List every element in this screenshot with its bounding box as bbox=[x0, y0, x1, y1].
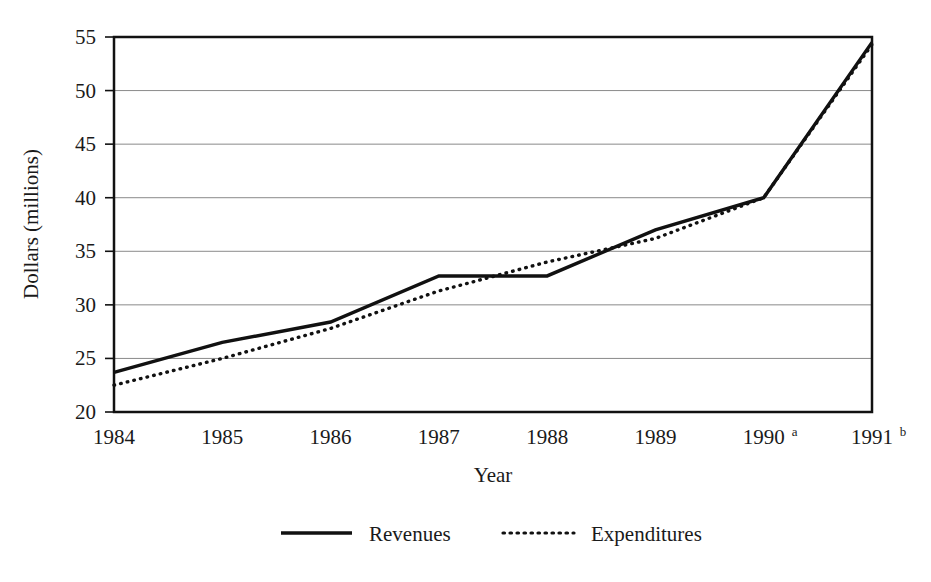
x-tick-label-1984: 1984 bbox=[93, 425, 136, 449]
x-tick-label-1987: 1987 bbox=[418, 425, 460, 449]
chart-figure: 2025303540455055 19841985198619871988198… bbox=[0, 0, 931, 582]
x-axis-title: Year bbox=[474, 463, 513, 487]
x-tick-label-1989: 1989 bbox=[634, 425, 676, 449]
x-tick-label-1990: 1990 bbox=[743, 425, 785, 449]
legend-label-revenues: Revenues bbox=[369, 522, 451, 546]
y-tick-label-50: 50 bbox=[75, 79, 96, 103]
y-tick-label-20: 20 bbox=[75, 400, 96, 424]
x-tick-label-1985: 1985 bbox=[201, 425, 243, 449]
chart-canvas: 2025303540455055 19841985198619871988198… bbox=[0, 0, 931, 582]
chart-background bbox=[0, 0, 931, 582]
y-tick-label-35: 35 bbox=[75, 239, 96, 263]
x-tick-superscript-1991: b bbox=[900, 424, 907, 439]
y-tick-label-25: 25 bbox=[75, 346, 96, 370]
x-tick-label-1991: 1991 bbox=[851, 425, 893, 449]
y-tick-label-55: 55 bbox=[75, 25, 96, 49]
y-tick-label-30: 30 bbox=[75, 293, 96, 317]
x-tick-superscript-1990: a bbox=[792, 424, 798, 439]
y-axis-title: Dollars (millions) bbox=[19, 149, 43, 299]
x-tick-label-1988: 1988 bbox=[526, 425, 568, 449]
x-tick-label-1986: 1986 bbox=[310, 425, 352, 449]
y-tick-label-45: 45 bbox=[75, 132, 96, 156]
y-tick-label-40: 40 bbox=[75, 186, 96, 210]
legend-label-expenditures: Expenditures bbox=[591, 522, 702, 546]
